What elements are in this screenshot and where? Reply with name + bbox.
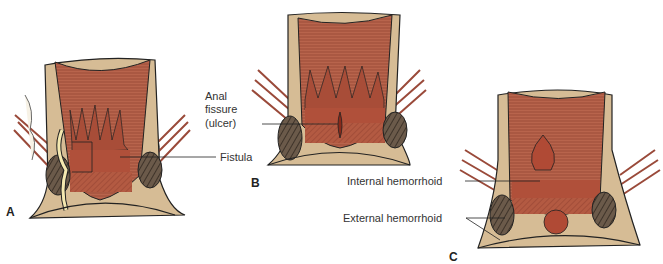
label-anal-fissure-line3: (ulcer): [205, 117, 236, 130]
panel-label-a: A: [6, 205, 15, 219]
label-internal-hemorrhoid: Internal hemorrhoid: [347, 175, 442, 188]
label-anal-fissure-line2: fissure: [205, 103, 237, 116]
panel-label-c: C: [449, 250, 458, 264]
panel-c-illustration: [460, 90, 660, 248]
panel-label-b: B: [251, 176, 260, 190]
panel-a-illustration: [14, 58, 216, 218]
label-external-hemorrhoid: External hemorrhoid: [343, 212, 442, 225]
label-fistula: Fistula: [220, 151, 252, 164]
diagram-canvas: [0, 0, 663, 264]
panel-b-illustration: [252, 13, 426, 166]
label-anal-fissure-line1: Anal: [205, 90, 227, 103]
